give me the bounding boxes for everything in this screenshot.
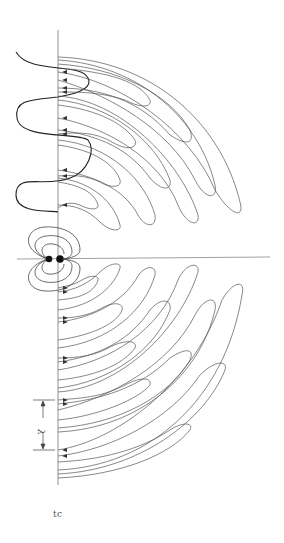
horizontal-axis <box>17 257 270 259</box>
wavelength-marker <box>33 400 55 450</box>
lower-arrows <box>62 286 68 458</box>
upper-field-lines <box>58 57 241 230</box>
dipole-radiation-diagram <box>0 0 284 543</box>
positive-charge <box>56 255 64 263</box>
lower-field-lines <box>58 264 243 478</box>
negative-charge <box>46 256 53 263</box>
figure-caption: tc <box>53 509 63 519</box>
wavelength-label: λ <box>36 429 46 435</box>
upper-arrows <box>62 70 67 207</box>
